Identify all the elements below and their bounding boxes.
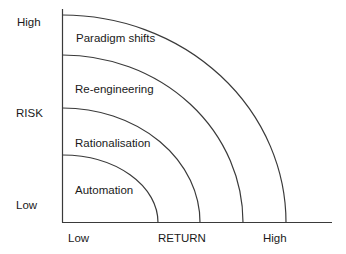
y-axis-high-label: High — [17, 16, 41, 29]
zone-label-re-engineering: Re-engineering — [75, 83, 154, 96]
zone-label-paradigm-shifts: Paradigm shifts — [76, 32, 155, 45]
y-axis-title: RISK — [16, 107, 43, 120]
x-axis-title: RETURN — [158, 232, 206, 245]
x-axis-high-label: High — [263, 232, 287, 245]
y-axis-low-label: Low — [16, 199, 37, 212]
zone-label-automation: Automation — [75, 184, 133, 197]
zone-label-rationalisation: Rationalisation — [75, 137, 150, 150]
risk-return-diagram: High RISK Low Low RETURN High Paradigm s… — [0, 0, 346, 254]
diagram-lines — [0, 0, 346, 254]
arc-rationalisation-boundary — [63, 108, 201, 223]
x-axis-low-label: Low — [68, 232, 89, 245]
